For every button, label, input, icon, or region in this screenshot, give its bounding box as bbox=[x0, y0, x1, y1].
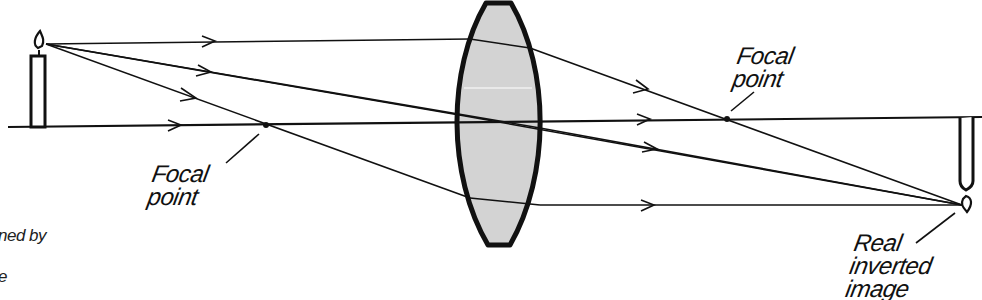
candle-flame-icon bbox=[35, 31, 43, 48]
left-focal-leader bbox=[226, 134, 259, 163]
right-focal-point-dot bbox=[724, 116, 730, 122]
real-inverted-image-label: Real inverted image bbox=[844, 232, 937, 300]
left-focal-point-dot bbox=[263, 122, 269, 128]
inverted-candle-image bbox=[960, 117, 973, 212]
right-focal-point-label: Focal point bbox=[731, 45, 795, 91]
right-focal-leader bbox=[731, 92, 754, 111]
candle-object bbox=[31, 31, 45, 127]
lens-ray-diagram bbox=[0, 0, 982, 300]
caption-line: ned by bbox=[0, 226, 46, 246]
caption-line: e bbox=[0, 267, 46, 287]
inverted-flame-icon bbox=[962, 196, 971, 212]
left-focal-point-label: Focal point bbox=[146, 163, 210, 209]
caption-fragment: ned by e rays 25 bbox=[0, 206, 46, 300]
